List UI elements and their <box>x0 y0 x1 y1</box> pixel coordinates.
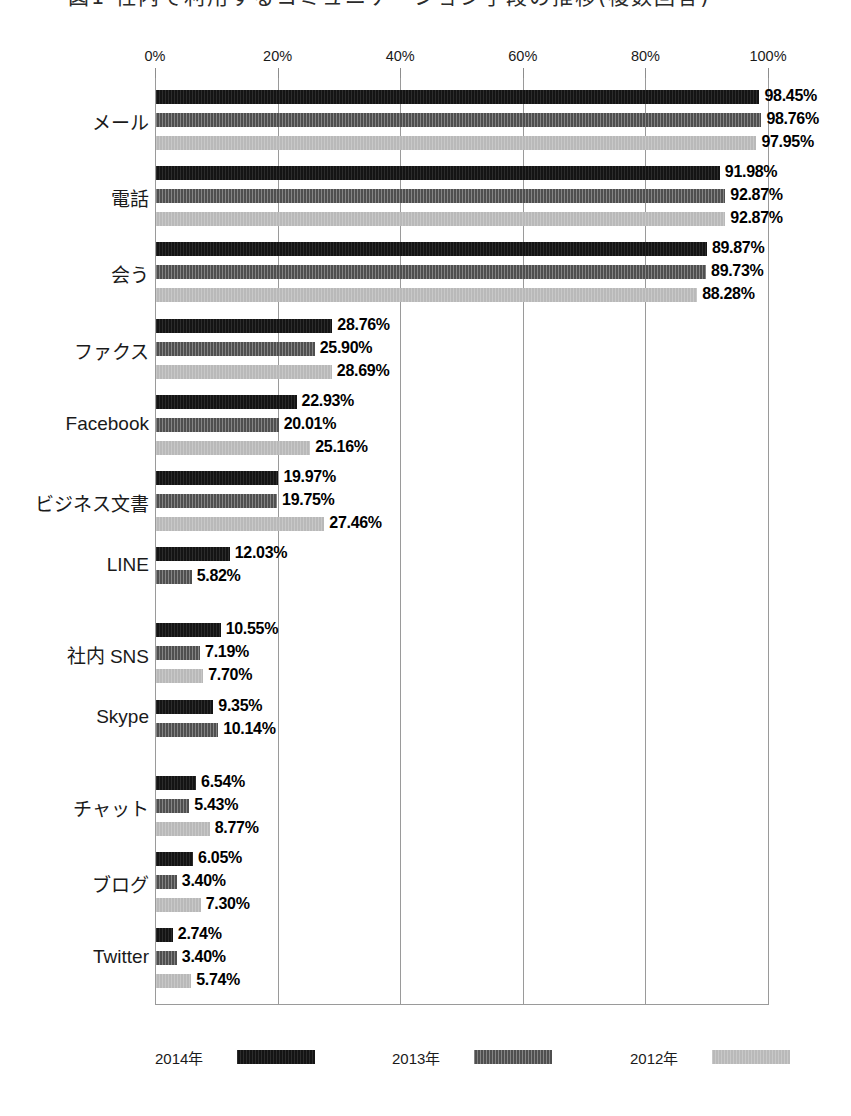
bar-group: LINE12.03%5.82% <box>0 547 851 607</box>
bar-value-label: 19.75% <box>282 491 334 509</box>
bar-2014年[interactable] <box>156 700 213 714</box>
legend-label: 2014年 <box>155 1047 203 1068</box>
bar-row: 19.97% <box>156 471 769 485</box>
bar-row: 12.03% <box>156 547 769 561</box>
bar-value-label: 25.16% <box>315 438 367 456</box>
bar-2012年[interactable] <box>156 898 201 912</box>
category-label: Facebook <box>66 413 149 435</box>
bar-value-label: 6.05% <box>198 849 242 867</box>
bar-value-label: 8.77% <box>215 819 259 837</box>
bar-group: チャット6.54%5.43%8.77% <box>0 776 851 836</box>
bar-value-label: 12.03% <box>235 544 287 562</box>
category-label: 会う <box>111 260 149 287</box>
bar-2012年[interactable] <box>156 517 324 531</box>
bar-2013年[interactable] <box>156 342 315 356</box>
bar-value-label: 7.19% <box>205 643 249 661</box>
x-tick-mark <box>645 68 646 78</box>
bar-row: 25.90% <box>156 342 769 356</box>
category-label: 社内 SNS <box>67 641 149 668</box>
bar-2013年[interactable] <box>156 646 200 660</box>
bar-2013年[interactable] <box>156 113 761 127</box>
bar-2012年[interactable] <box>156 288 697 302</box>
bar-2013年[interactable] <box>156 418 279 432</box>
bar-value-label: 19.97% <box>283 468 335 486</box>
bar-row: 92.87% <box>156 212 769 226</box>
bar-2012年[interactable] <box>156 136 756 150</box>
category-label: 電話 <box>111 184 149 211</box>
bar-value-label: 97.95% <box>761 133 813 151</box>
bar-2014年[interactable] <box>156 395 297 409</box>
bar-value-label: 89.87% <box>712 239 764 257</box>
bar-value-label: 7.30% <box>206 895 250 913</box>
bar-row: 98.45% <box>156 90 769 104</box>
category-label: ビジネス文書 <box>35 489 149 516</box>
bar-value-label: 27.46% <box>329 514 381 532</box>
bar-2012年[interactable] <box>156 441 310 455</box>
bar-value-label: 10.14% <box>223 720 275 738</box>
bar-value-label: 28.76% <box>337 316 389 334</box>
legend-swatch <box>237 1050 315 1064</box>
bar-row: 91.98% <box>156 166 769 180</box>
bar-group: Facebook22.93%20.01%25.16% <box>0 395 851 455</box>
bar-2014年[interactable] <box>156 776 196 790</box>
bar-2014年[interactable] <box>156 166 720 180</box>
bar-2012年[interactable] <box>156 974 191 988</box>
bar-value-label: 7.70% <box>208 666 252 684</box>
bar-value-label: 92.87% <box>730 209 782 227</box>
bar-2012年[interactable] <box>156 822 210 836</box>
bar-group: Twitter2.74%3.40%5.74% <box>0 928 851 988</box>
bar-2013年[interactable] <box>156 951 177 965</box>
bar-group: ブログ6.05%3.40%7.30% <box>0 852 851 912</box>
bar-2013年[interactable] <box>156 265 706 279</box>
x-tick-mark <box>768 68 769 78</box>
bar-2013年[interactable] <box>156 570 192 584</box>
bar-value-label: 88.28% <box>702 285 754 303</box>
x-tick-mark <box>523 68 524 78</box>
bar-row: 19.75% <box>156 494 769 508</box>
bar-2014年[interactable] <box>156 852 193 866</box>
bar-2014年[interactable] <box>156 928 173 942</box>
bar-2014年[interactable] <box>156 90 759 104</box>
bar-value-label: 25.90% <box>320 339 372 357</box>
bar-row: 5.43% <box>156 799 769 813</box>
x-axis-tick-label: 0% <box>145 48 166 64</box>
bar-group: ビジネス文書19.97%19.75%27.46% <box>0 471 851 531</box>
bar-group: 電話91.98%92.87%92.87% <box>0 166 851 226</box>
bar-2012年[interactable] <box>156 365 332 379</box>
bar-value-label: 98.45% <box>764 87 816 105</box>
bar-2013年[interactable] <box>156 799 189 813</box>
bar-value-label: 91.98% <box>725 163 777 181</box>
bar-2014年[interactable] <box>156 471 278 485</box>
bar-2013年[interactable] <box>156 723 218 737</box>
bar-2013年[interactable] <box>156 494 277 508</box>
category-label: ファクス <box>74 337 149 364</box>
bar-2012年[interactable] <box>156 212 725 226</box>
bar-group: 会う89.87%89.73%88.28% <box>0 242 851 302</box>
bar-2013年[interactable] <box>156 875 177 889</box>
bar-2013年[interactable] <box>156 189 725 203</box>
bar-row: 5.74% <box>156 974 769 988</box>
bar-row: 27.46% <box>156 517 769 531</box>
bar-row: 8.77% <box>156 822 769 836</box>
x-axis-tick-label: 20% <box>263 48 292 64</box>
bar-2012年[interactable] <box>156 669 203 683</box>
x-axis-tick-label: 60% <box>508 48 537 64</box>
bar-2014年[interactable] <box>156 547 230 561</box>
legend-label: 2013年 <box>392 1047 440 1068</box>
chart-legend: 2014年2013年2012年 <box>0 1044 851 1070</box>
bar-row: 97.95% <box>156 136 769 150</box>
x-axis-tick-label: 40% <box>386 48 415 64</box>
x-tick-mark <box>400 68 401 78</box>
category-label: LINE <box>107 554 149 576</box>
bar-2014年[interactable] <box>156 242 707 256</box>
bar-2014年[interactable] <box>156 319 332 333</box>
bar-row: 22.93% <box>156 395 769 409</box>
bar-value-label: 5.74% <box>196 971 240 989</box>
bar-row: 7.19% <box>156 646 769 660</box>
bar-row: 28.76% <box>156 319 769 333</box>
bar-row: 10.55% <box>156 623 769 637</box>
bar-row: 7.30% <box>156 898 769 912</box>
bar-2014年[interactable] <box>156 623 221 637</box>
bar-row: 6.05% <box>156 852 769 866</box>
bar-value-label: 10.55% <box>226 620 278 638</box>
